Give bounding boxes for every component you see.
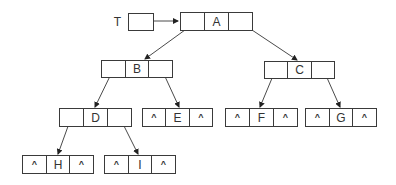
node-data-label: B (133, 62, 141, 76)
edges (58, 21, 340, 154)
node-data-label: E (173, 111, 181, 125)
node-data-label: A (212, 15, 220, 29)
null-pointer-right-icon: ^ (283, 112, 289, 122)
node-data-label: G (336, 111, 345, 125)
root-pointer: T (114, 14, 154, 31)
tree-node-d: D (60, 109, 132, 127)
tree-node-e: E^^ (143, 109, 213, 127)
null-pointer-right-icon: ^ (362, 112, 368, 122)
null-pointer-right-icon: ^ (79, 159, 85, 169)
tree-node-b: B (102, 61, 173, 78)
null-pointer-right-icon: ^ (161, 159, 167, 169)
null-pointer-left-icon: ^ (151, 112, 157, 122)
null-pointer-left-icon: ^ (32, 159, 38, 169)
tree-nodes: ABCDE^^F^^G^^H^^I^^ (23, 13, 377, 174)
tree-node-c: C (265, 62, 335, 79)
tree-node-a: A (181, 13, 253, 31)
node-data-label: C (295, 63, 304, 77)
null-pointer-left-icon: ^ (114, 159, 120, 169)
root-pointer-box (129, 14, 154, 31)
tree-node-f: F^^ (226, 109, 298, 127)
node-data-label: I (138, 158, 141, 172)
tree-node-h: H^^ (23, 156, 94, 174)
node-data-label: D (91, 111, 100, 125)
tree-node-g: G^^ (306, 109, 377, 127)
null-pointer-left-icon: ^ (235, 112, 241, 122)
binary-tree-diagram: T ABCDE^^F^^G^^H^^I^^ (0, 0, 396, 185)
tree-node-i: I^^ (105, 156, 176, 174)
null-pointer-left-icon: ^ (315, 112, 321, 122)
node-data-label: F (258, 111, 265, 125)
node-data-label: H (54, 158, 63, 172)
null-pointer-right-icon: ^ (198, 112, 204, 122)
root-pointer-label: T (114, 15, 122, 29)
